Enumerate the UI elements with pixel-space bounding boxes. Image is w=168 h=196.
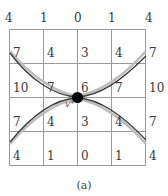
grid-value: 0 xyxy=(74,12,82,24)
grid-value: 4 xyxy=(115,116,123,128)
grid-value: 6 xyxy=(81,82,89,94)
grid-value: 4 xyxy=(5,12,13,24)
grid-value: 7 xyxy=(13,47,21,59)
grid-value: 7 xyxy=(115,82,123,94)
grid-value: 1 xyxy=(115,150,123,162)
grid-value: 7 xyxy=(13,116,21,128)
grid-value: 4 xyxy=(47,116,55,128)
grid-value: 4 xyxy=(47,47,55,59)
grid-value: 4 xyxy=(145,12,153,24)
saddle-point-label: v* xyxy=(65,99,75,109)
figure-caption: (a) xyxy=(0,179,168,192)
grid-value: 7 xyxy=(149,47,157,59)
grid-value: 4 xyxy=(13,150,21,162)
grid-value: 3 xyxy=(81,116,89,128)
grid-value: 1 xyxy=(108,12,116,24)
grid-value: 10 xyxy=(13,82,28,94)
grid-value: 7 xyxy=(149,116,157,128)
grid-value: 4 xyxy=(149,150,157,162)
grid-diagram xyxy=(0,0,168,196)
grid-value: 1 xyxy=(40,12,48,24)
grid-value: 10 xyxy=(149,82,164,94)
grid-value: 3 xyxy=(81,47,89,59)
grid-value: 0 xyxy=(81,150,89,162)
grid-value: 4 xyxy=(115,47,123,59)
grid-value: 7 xyxy=(47,82,55,94)
grid-value: 1 xyxy=(47,150,55,162)
